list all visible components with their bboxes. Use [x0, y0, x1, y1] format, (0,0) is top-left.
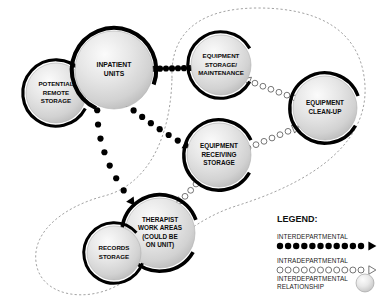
relationship-diagram-canvas: POTENTIALREMOTESTORAGEINPATIENTUNITSEQUI…: [0, 0, 389, 308]
legend-label-relationship-line2: RELATIONSHIP: [277, 283, 324, 290]
legend-title: LEGEND:: [277, 214, 318, 224]
node-equipment-storage-maintenance[interactable]: EQUIPMENTSTORAGE/MAINTENANCE: [188, 32, 251, 98]
legend-sample-interdepartmental: [277, 241, 377, 250]
inpatient-to-therapist-marker: [113, 175, 119, 181]
legend-interdepartmental-dot: [350, 243, 356, 249]
node-label-equipment-clean-up: EQUIPMENT: [306, 99, 344, 107]
node-label-potential-remote-storage: STORAGE: [41, 97, 71, 104]
legend: LEGEND: INTERDEPARTMENTAL INTRADEPARTMEN…: [277, 214, 377, 292]
legend-intradepartmental-dot: [277, 267, 283, 273]
inpatient-to-equipment-receiving-marker: [157, 126, 163, 132]
node-label-equipment-storage-maintenance: STORAGE/: [205, 61, 237, 68]
node-label-equipment-storage-maintenance: MAINTENANCE: [198, 69, 244, 76]
node-label-equipment-storage-maintenance: EQUIPMENT: [203, 52, 240, 59]
legend-intradepartmental-dot: [309, 267, 315, 273]
equipment-storage-to-clean-up-marker: [284, 92, 290, 98]
legend-intradepartmental-dot: [326, 267, 332, 273]
equipment-receiving-to-clean-up-marker: [261, 138, 267, 144]
legend-intradepartmental-dot: [334, 267, 340, 273]
node-label-records-storage: STORAGE: [99, 253, 129, 260]
legend-intradepartmental-dot: [358, 267, 364, 273]
legend-intradepartmental-dot: [293, 267, 299, 273]
legend-intradepartmental-dot: [350, 267, 356, 273]
legend-interdepartmental-dot: [325, 243, 331, 249]
legend-interdepartmental-dot: [301, 243, 307, 249]
inpatient-to-therapist-marker: [101, 149, 107, 155]
equipment-storage-to-clean-up-marker: [252, 80, 258, 86]
inpatient-to-equipment-receiving-marker: [131, 107, 137, 113]
node-label-equipment-clean-up: CLEAN-UP: [308, 108, 342, 115]
legend-label-relationship-line1: INTERDEPARTMENTAL: [277, 275, 348, 282]
node-label-equipment-receiving-storage: EQUIPMENT: [200, 142, 238, 150]
legend-relationship-sphere-icon: [356, 274, 374, 292]
node-label-inpatient-units: INPATIENT: [97, 61, 133, 68]
node-label-equipment-receiving-storage: RECEIVING: [201, 151, 236, 158]
inpatient-to-therapist-marker: [107, 162, 113, 168]
inpatient-to-equipment-storage-marker: [181, 65, 187, 71]
node-label-therapist-work-areas: WORK AREAS: [138, 224, 183, 231]
equipment-receiving-to-clean-up-marker: [269, 135, 275, 141]
therapist-to-equipment-receiving-marker: [188, 187, 194, 193]
node-records-storage[interactable]: RECORDSSTORAGE: [84, 223, 143, 283]
legend-interdepartmental-dot: [342, 243, 348, 249]
inpatient-to-equipment-receiving-marker: [139, 114, 145, 120]
node-equipment-receiving-storage[interactable]: EQUIPMENTRECEIVINGSTORAGE: [184, 120, 251, 190]
inpatient-to-equipment-storage-marker: [163, 65, 169, 71]
node-equipment-clean-up[interactable]: EQUIPMENTCLEAN-UP: [290, 73, 358, 143]
node-label-equipment-receiving-storage: STORAGE: [203, 159, 235, 166]
node-label-therapist-work-areas: ON UNIT): [146, 241, 174, 249]
inpatient-to-equipment-receiving-marker: [148, 120, 154, 126]
legend-sample-intradepartmental: [277, 266, 376, 274]
inpatient-to-equipment-receiving-marker: [175, 138, 181, 144]
legend-interdepartmental-dot: [293, 243, 299, 249]
legend-interdepartmental-dot: [309, 243, 315, 249]
legend-interdepartmental-dot: [277, 243, 283, 249]
legend-label-intradepartmental: INTRADEPARTMENTAL: [277, 257, 348, 264]
legend-intradepartmental-dot: [285, 267, 291, 273]
legend-interdepartmental-dot: [358, 243, 364, 249]
legend-label-interdepartmental: INTERDEPARTMENTAL: [277, 233, 348, 240]
legend-intradepartmental-dot: [301, 267, 307, 273]
inpatient-to-therapist: [94, 93, 134, 206]
equipment-storage-to-clean-up-marker: [268, 86, 274, 92]
legend-intradepartmental-dot: [342, 267, 348, 273]
node-label-inpatient-units: UNITS: [104, 70, 125, 77]
equipment-receiving-to-clean-up-marker: [253, 142, 259, 148]
therapist-to-equipment-receiving-marker: [182, 193, 188, 199]
equipment-receiving-to-clean-up: [245, 125, 299, 151]
legend-intradepartmental-arrowhead: [369, 266, 376, 274]
equipment-storage-to-clean-up-marker: [260, 83, 266, 89]
inpatient-to-therapist-marker: [95, 121, 101, 127]
node-label-potential-remote-storage: POTENTIAL: [38, 80, 73, 87]
legend-interdepartmental-dot: [285, 243, 291, 249]
node-label-records-storage: RECORDS: [99, 244, 130, 251]
node-label-therapist-work-areas: (COULD BE: [142, 233, 178, 241]
node-label-potential-remote-storage: REMOTE: [43, 89, 69, 96]
legend-interdepartmental-dot: [317, 243, 323, 249]
legend-interdepartmental-dot: [334, 243, 340, 249]
equipment-receiving-to-clean-up-marker: [277, 132, 283, 138]
equipment-receiving-to-clean-up-marker: [285, 128, 291, 134]
node-label-therapist-work-areas: THERAPIST: [142, 216, 178, 223]
diagram-root: POTENTIALREMOTESTORAGEINPATIENTUNITSEQUI…: [0, 0, 389, 308]
legend-intradepartmental-dot: [318, 267, 324, 273]
inpatient-to-therapist-marker: [97, 135, 103, 141]
inpatient-to-therapist-marker: [121, 187, 127, 193]
equipment-storage-to-clean-up-marker: [276, 89, 282, 95]
inpatient-to-equipment-storage-marker: [169, 65, 175, 71]
inpatient-to-equipment-storage-marker: [175, 65, 181, 71]
legend-interdepartmental-arrowhead: [368, 241, 376, 250]
inpatient-to-equipment-receiving-marker: [166, 132, 172, 138]
